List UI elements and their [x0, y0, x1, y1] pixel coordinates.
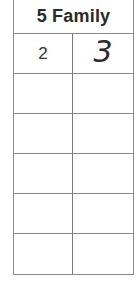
answer-cell[interactable] [73, 194, 133, 233]
given-number-cell[interactable] [14, 114, 73, 153]
given-number-cell[interactable] [14, 154, 73, 193]
given-number: 2 [38, 44, 47, 64]
given-number-cell[interactable] [14, 194, 73, 233]
answer-cell[interactable] [73, 74, 133, 113]
answer-number: 3 [93, 34, 112, 69]
table-row [14, 154, 133, 194]
answer-cell[interactable] [73, 114, 133, 153]
table-row [14, 74, 133, 114]
given-number-cell[interactable] [14, 74, 73, 113]
given-number-cell: 2 [14, 34, 73, 73]
table-row [14, 234, 133, 274]
answer-cell[interactable] [73, 234, 133, 274]
table-row [14, 194, 133, 234]
table-row: 2 3 [14, 34, 133, 74]
answer-cell[interactable] [73, 154, 133, 193]
given-number-cell[interactable] [14, 234, 73, 274]
table-row [14, 114, 133, 154]
answer-cell[interactable]: 3 [73, 34, 133, 73]
title-row: 5 Family [14, 0, 133, 34]
number-family-worksheet: 5 Family 2 3 [13, 0, 134, 275]
worksheet-title: 5 Family [37, 6, 111, 27]
